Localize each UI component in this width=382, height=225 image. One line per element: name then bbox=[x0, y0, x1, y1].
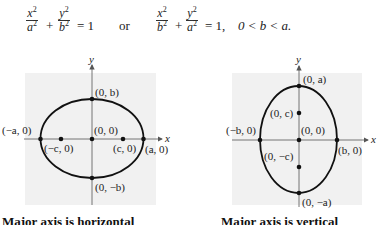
label-lower-focus: (0, −c) bbox=[264, 150, 294, 163]
label-bottom-point: (0, −a) bbox=[302, 196, 332, 209]
label-upper-focus: (0, c) bbox=[270, 107, 294, 120]
label-center: (0, 0) bbox=[301, 124, 325, 137]
x-axis-label: x bbox=[370, 133, 376, 145]
caption-horizontal: Major axis is horizontal bbox=[2, 214, 134, 225]
label-left-vertex: (−b, 0) bbox=[226, 124, 256, 137]
ellipse-labels-vertical: y x (0, a) (0, c) (0, 0) (−b, 0) (b, 0) … bbox=[0, 0, 382, 225]
label-top-point: (0, a) bbox=[303, 73, 327, 86]
label-right-vertex: (b, 0) bbox=[338, 144, 362, 157]
y-axis-label: y bbox=[295, 53, 301, 65]
caption-vertical: Major axis is vertical bbox=[221, 214, 338, 225]
